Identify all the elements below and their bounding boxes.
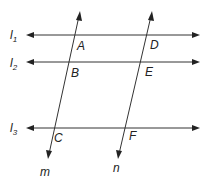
arrowhead-down-icon [46, 150, 52, 159]
arrowhead-right-icon [192, 125, 200, 131]
label-l2: l2 [10, 56, 18, 72]
line-l2 [26, 59, 200, 65]
line-l3 [26, 125, 200, 131]
label-l1: l1 [10, 28, 17, 44]
label-n: n [113, 161, 120, 175]
point-label-f: F [129, 129, 137, 143]
arrowhead-right-icon [192, 59, 200, 65]
line-l1 [26, 32, 200, 38]
diagram-canvas: l1 l2 l3 m n A B C D E F [0, 0, 212, 182]
arrowhead-left-icon [26, 125, 34, 131]
point-label-c: C [54, 131, 63, 145]
point-label-e: E [145, 65, 154, 79]
line-m [46, 11, 82, 159]
point-label-a: A [76, 39, 85, 53]
label-l3: l3 [10, 121, 18, 137]
arrowhead-up-icon [148, 11, 154, 21]
arrowhead-left-icon [26, 32, 34, 38]
arrowhead-left-icon [26, 59, 34, 65]
arrowhead-up-icon [76, 11, 82, 21]
arrowhead-down-icon [116, 150, 122, 159]
label-m: m [40, 165, 50, 179]
arrowhead-right-icon [192, 32, 200, 38]
point-label-b: B [71, 66, 79, 80]
parallel-lines-diagram: l1 l2 l3 m n A B C D E F [0, 0, 212, 182]
point-label-d: D [150, 38, 159, 52]
